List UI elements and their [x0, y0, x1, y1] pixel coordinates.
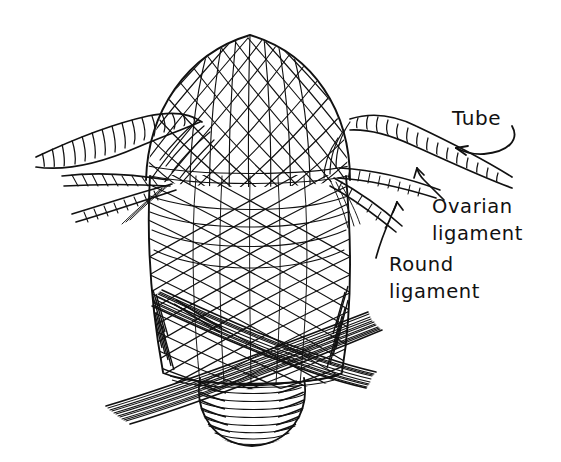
label-tube: Tube: [451, 106, 501, 130]
label-round-ligament-line2: ligament: [389, 280, 480, 303]
anatomical-figure: Tube Ovarian ligament Round ligament: [0, 0, 561, 462]
label-ovarian-ligament-line1: Ovarian: [432, 195, 513, 218]
label-ovarian-ligament-line2: ligament: [432, 222, 523, 245]
label-round-ligament-line1: Round: [389, 253, 454, 276]
uterus-illustration: Tube Ovarian ligament Round ligament: [0, 0, 561, 462]
